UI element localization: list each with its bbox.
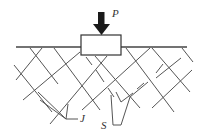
joint-line	[16, 48, 42, 80]
slip-leaders	[111, 95, 130, 125]
slip-label: S	[101, 119, 107, 131]
slip-line	[156, 64, 163, 73]
joint-line	[130, 82, 148, 97]
joint-label: J	[80, 112, 86, 124]
load-arrow-icon	[93, 12, 110, 35]
joint-line	[54, 48, 100, 110]
footing-block	[81, 35, 121, 55]
joint-line	[152, 70, 192, 108]
joint-line	[182, 48, 193, 62]
joint-line	[30, 48, 58, 84]
joint-line	[82, 48, 150, 110]
joint-set-b	[16, 48, 192, 124]
load-label: P	[111, 7, 119, 19]
slip-line	[96, 70, 104, 82]
joint-set-a	[14, 48, 193, 119]
slip-line	[86, 57, 92, 65]
joint-leaders	[40, 100, 78, 119]
joint-line	[38, 92, 66, 119]
joint-line	[23, 52, 80, 100]
joint-line	[126, 48, 174, 112]
rock-foundation-diagram: P J S	[0, 0, 206, 139]
